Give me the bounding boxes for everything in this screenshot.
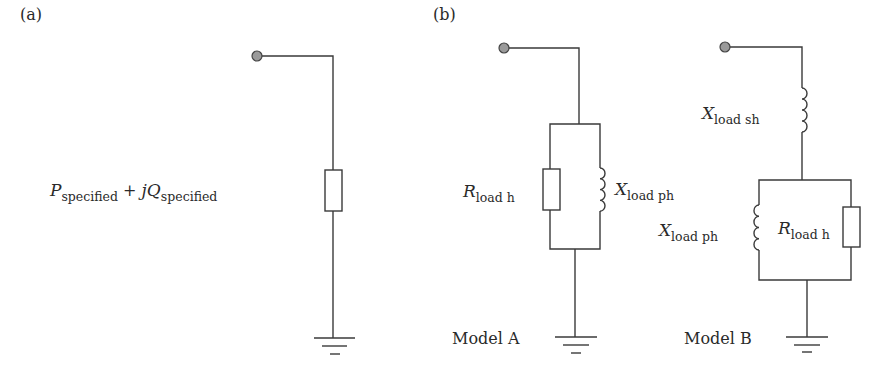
series-inductor-icon <box>802 88 807 132</box>
q-symbol: jQ <box>138 180 161 200</box>
source-node-icon <box>720 42 730 52</box>
model-a-caption: Model A <box>452 329 520 348</box>
resistor-label: Rload h <box>777 218 830 242</box>
p-symbol: P <box>49 180 62 200</box>
load-expression: Pspecified + jQspecified <box>49 180 217 204</box>
resistor-label: Rload h <box>462 181 515 205</box>
wire-mb-box-top <box>759 180 851 207</box>
wire-ma-top <box>504 48 579 124</box>
circuit-diagram: (a) Pspecified + jQspecified (b) <box>0 0 887 380</box>
resistor-icon <box>543 169 560 210</box>
inductor-label: Xload ph <box>657 220 718 244</box>
p-subscript: specified <box>61 189 118 204</box>
resistor-icon <box>325 170 342 211</box>
panel-a-label: (a) <box>20 5 42 24</box>
wire-mb-top <box>725 47 802 88</box>
model-b-caption: Model B <box>684 329 752 348</box>
wire-a-top <box>257 56 333 170</box>
model-b: Xload sh Xload ph Rload h Model B <box>657 42 860 352</box>
source-node-icon <box>252 51 262 61</box>
model-a: Rload h Xload ph Model A <box>452 43 674 353</box>
q-subscript: specified <box>161 189 218 204</box>
ground-icon <box>786 337 828 352</box>
plus-sign: + <box>118 181 142 200</box>
ground-icon <box>314 338 355 354</box>
wire-ma-box-top <box>550 124 600 169</box>
inductor-label: Xload ph <box>613 179 674 203</box>
ground-icon <box>555 337 597 353</box>
wire-ma-box-bottom <box>550 210 600 249</box>
inductor-icon <box>754 205 759 250</box>
resistor-icon <box>843 207 860 247</box>
panel-b: (b) Rload h Xload ph Model A <box>433 5 860 353</box>
inductor-icon <box>600 168 605 211</box>
panel-a: (a) Pspecified + jQspecified <box>20 5 355 354</box>
panel-b-label: (b) <box>433 5 456 24</box>
wire-mb-box-bottom <box>759 247 851 280</box>
source-node-icon <box>499 43 509 53</box>
series-inductor-label: Xload sh <box>700 103 760 127</box>
